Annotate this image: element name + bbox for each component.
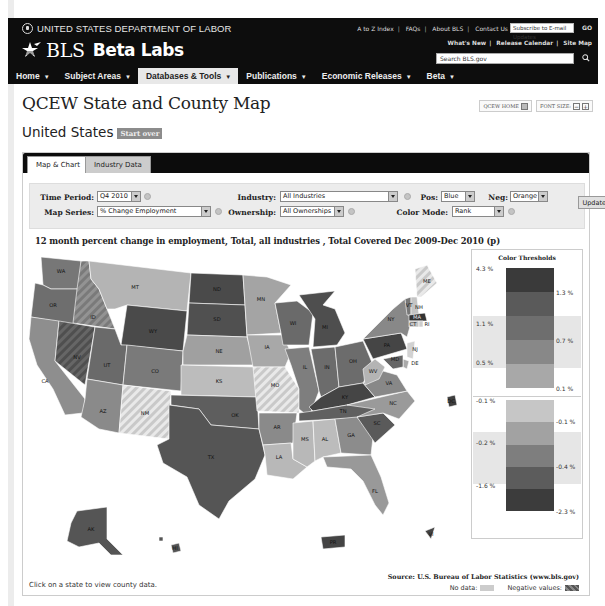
link-whats-new[interactable]: What's New [448, 40, 487, 46]
help-icon[interactable] [404, 193, 411, 200]
svg-text:AZ: AZ [99, 408, 107, 414]
dropdown-arrow-icon [131, 192, 140, 201]
svg-text:VI: VI [428, 531, 434, 537]
qcew-home-button[interactable]: QCEW HOME [479, 100, 532, 112]
svg-text:GA: GA [347, 432, 355, 438]
svg-text:OK: OK [231, 412, 239, 418]
link-site-map[interactable]: Site Map [563, 40, 592, 46]
nav-publications[interactable]: Publications▼ [238, 68, 314, 84]
legend-swatch-neg-4 [506, 467, 554, 489]
negative-values-swatch [565, 585, 579, 591]
neg-color-select[interactable]: Orange [510, 191, 548, 202]
legend-label: 1.1 % [476, 320, 493, 327]
svg-text:RI: RI [424, 321, 430, 327]
svg-text:UT: UT [104, 362, 112, 368]
industry-select[interactable]: All Industries [280, 191, 398, 202]
font-decrease-icon[interactable]: − [573, 103, 580, 110]
tab-industry-data[interactable]: Industry Data [85, 156, 151, 173]
font-increase-icon[interactable]: + [582, 103, 589, 110]
color-mode-label: Color Mode: [390, 208, 448, 217]
legend-label: -0.4 % [556, 463, 575, 470]
legend-label: 0.1 % [556, 385, 573, 392]
legend-label: -0.1 % [556, 418, 575, 425]
no-data-swatch [480, 585, 494, 591]
nav-home[interactable]: Home▼ [8, 68, 57, 84]
time-period-select[interactable]: Q4 2010 [97, 191, 141, 202]
update-button[interactable]: Update [578, 196, 605, 209]
nav-subject-areas[interactable]: Subject Areas▼ [57, 68, 138, 84]
link-contact-us[interactable]: Contact Us [475, 25, 508, 32]
nav-economic-releases[interactable]: Economic Releases▼ [314, 68, 419, 84]
agency-name: UNITED STATES DEPARTMENT OF LABOR [37, 23, 232, 34]
chevron-down-icon: ▼ [44, 74, 50, 80]
svg-text:CT: CT [410, 321, 418, 327]
search-input[interactable]: Search BLS.gov [436, 53, 574, 64]
svg-text:WI: WI [290, 320, 297, 326]
svg-text:TN: TN [338, 408, 346, 414]
color-mode-select[interactable]: Rank [452, 206, 504, 217]
dropdown-arrow-icon [494, 207, 503, 216]
link-faqs[interactable]: FAQs [406, 25, 421, 32]
svg-text:NH: NH [415, 304, 423, 310]
help-icon[interactable] [144, 193, 151, 200]
page-title: QCEW State and County Map [22, 93, 270, 113]
help-icon[interactable] [348, 208, 355, 215]
tab-map-chart[interactable]: Map & Chart [27, 156, 89, 173]
svg-text:AL: AL [322, 436, 329, 442]
bls-star-icon [22, 41, 42, 59]
link-a-to-z[interactable]: A to Z Index [357, 25, 393, 32]
ownership-select[interactable]: All Ownerships [280, 206, 344, 217]
svg-text:OH: OH [349, 358, 357, 364]
subscribe-go-button[interactable]: GO [582, 24, 592, 31]
start-over-button[interactable]: Start over [117, 128, 162, 139]
ownership-label: Ownership: [220, 208, 276, 217]
special-values-legend: No data: Negative values: [450, 584, 579, 592]
legend-swatch-pos-1 [506, 268, 554, 292]
nav-beta[interactable]: Beta▼ [419, 68, 462, 84]
svg-text:KS: KS [216, 378, 223, 384]
us-choropleth-map[interactable]: WA OR CA ID NV MT WY UT AZ CO NM ND SD N… [23, 249, 463, 569]
chart-title: 12 month percent change in employment, T… [35, 236, 500, 246]
svg-text:WY: WY [149, 328, 158, 334]
state-hi-2 [159, 537, 163, 541]
state-de [403, 359, 409, 369]
svg-text:LA: LA [276, 454, 283, 460]
link-release-calendar[interactable]: Release Calendar [496, 40, 553, 46]
svg-text:NY: NY [387, 316, 395, 322]
legend-swatch-pos-4 [506, 340, 554, 364]
chevron-down-icon: ▼ [125, 74, 131, 80]
legend-label: -1.6 % [476, 482, 495, 489]
svg-text:IN: IN [324, 364, 330, 370]
legend-label: 1.3 % [556, 289, 573, 296]
legend-swatch-neg-1 [506, 400, 554, 422]
svg-text:ND: ND [213, 286, 221, 292]
svg-text:MO: MO [271, 382, 280, 388]
legend-label: -0.1 % [476, 397, 495, 404]
chevron-down-icon: ▼ [449, 74, 455, 80]
map-series-label: Map Series: [34, 208, 94, 217]
time-period-label: Time Period: [34, 193, 94, 202]
nav-databases-tools[interactable]: Databases & Tools▼ [138, 68, 238, 84]
state-ms [293, 421, 315, 467]
industry-label: Industry: [220, 193, 276, 202]
search-icon[interactable] [582, 54, 590, 62]
dropdown-arrow-icon [201, 207, 210, 216]
dropdown-arrow-icon [388, 192, 397, 201]
legend-label: 4.3 % [476, 265, 493, 272]
bls-logo[interactable]: BLS Beta Labs [22, 39, 184, 61]
svg-text:CA: CA [41, 378, 49, 384]
release-links: What's New| Release Calendar| Site Map [448, 40, 592, 46]
pos-label: Pos: [416, 193, 438, 202]
pos-color-select[interactable]: Blue [441, 191, 475, 202]
map-series-select[interactable]: % Change Employment [97, 206, 211, 217]
dropdown-arrow-icon [538, 192, 547, 201]
help-icon[interactable] [508, 208, 515, 215]
svg-text:SC: SC [374, 420, 381, 426]
state-mo [253, 367, 299, 413]
svg-text:NJ: NJ [412, 346, 418, 353]
subscribe-email-input[interactable]: Subscribe to E-mail Updates [510, 23, 574, 33]
link-about-bls[interactable]: About BLS [432, 25, 463, 32]
dol-banner[interactable]: UNITED STATES DEPARTMENT OF LABOR [22, 23, 232, 34]
svg-text:CO: CO [151, 368, 159, 374]
legend-label: 0.5 % [476, 359, 493, 366]
